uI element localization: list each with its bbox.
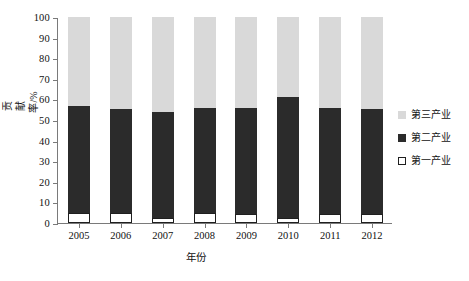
bar-group[interactable] [152,17,174,223]
legend: 第三产业第二产业第一产业 [398,110,451,179]
bar-segment-tertiary[interactable] [361,17,383,109]
x-axis-title: 年份 [0,253,392,264]
y-axis-tick-label: 30 [39,157,50,168]
x-axis-tick [246,223,247,228]
y-axis-tick [53,142,58,143]
bar-segment-tertiary[interactable] [194,17,216,108]
y-axis-tick-label: 50 [39,116,50,127]
legend-label: 第三产业 [411,110,451,120]
x-axis-tick [205,223,206,228]
y-axis-tick [53,80,58,81]
y-axis-tick [53,183,58,184]
bar-group[interactable] [319,17,341,223]
x-axis-tick [288,223,289,228]
stacked-bar-chart: 贡献率/% 0102030405060708090100200520062007… [0,0,469,281]
x-axis-tick [330,223,331,228]
y-axis-tick [53,224,58,225]
y-axis-title: 贡献率/% [13,86,27,125]
y-axis-tick [53,121,58,122]
y-axis-tick-label: 10 [39,198,50,209]
bar-segment-primary[interactable] [235,214,257,223]
y-axis-tick-label: 40 [39,136,50,147]
y-axis-tick-label: 80 [39,54,50,65]
y-axis-tick-label: 100 [34,13,50,24]
bar-segment-primary[interactable] [319,214,341,223]
x-axis-tick [163,223,164,228]
legend-swatch-secondary [398,134,406,142]
bar-group[interactable] [361,17,383,223]
x-axis-tick-label: 2009 [236,231,257,242]
bar-segment-primary[interactable] [110,213,132,223]
legend-label: 第二产业 [411,133,451,143]
bar-segment-tertiary[interactable] [68,17,90,106]
bar-group[interactable] [235,17,257,223]
bar-group[interactable] [68,17,90,223]
bar-segment-tertiary[interactable] [110,17,132,109]
plot-area: 0102030405060708090100200520062007200820… [57,18,392,224]
bar-segment-primary[interactable] [68,213,90,223]
y-axis-tick-label: 70 [39,75,50,86]
bar-segment-tertiary[interactable] [235,17,257,108]
y-axis-tick [53,203,58,204]
bar-segment-primary[interactable] [194,213,216,223]
bar-segment-tertiary[interactable] [152,17,174,112]
legend-swatch-tertiary [398,111,406,119]
bar-segment-secondary[interactable] [319,108,341,215]
y-axis-title-text: 贡献率/% [1,99,40,113]
legend-item[interactable]: 第三产业 [398,110,451,120]
bar-segment-secondary[interactable] [194,108,216,213]
legend-item[interactable]: 第二产业 [398,133,451,143]
bar-group[interactable] [110,17,132,223]
x-axis-tick-label: 2011 [320,231,341,242]
y-axis-tick [53,39,58,40]
plot-inner: 0102030405060708090100200520062007200820… [58,18,392,223]
bar-segment-primary[interactable] [361,214,383,223]
y-axis-tick-label: 90 [39,33,50,44]
x-axis-tick-label: 2012 [362,231,383,242]
x-axis-tick-label: 2010 [278,231,299,242]
bar-segment-secondary[interactable] [110,109,132,213]
legend-swatch-primary [398,157,406,165]
bar-segment-primary[interactable] [277,218,299,223]
x-axis-tick-label: 2008 [194,231,215,242]
x-axis-tick [79,223,80,228]
bar-segment-secondary[interactable] [152,112,174,218]
legend-label: 第一产业 [411,156,451,166]
bar-segment-primary[interactable] [152,218,174,223]
bar-segment-secondary[interactable] [361,109,383,215]
bar-segment-tertiary[interactable] [319,17,341,108]
bar-segment-secondary[interactable] [277,97,299,218]
y-axis-tick-label: 60 [39,95,50,106]
x-axis-tick-label: 2005 [68,231,89,242]
x-axis-tick-label: 2006 [110,231,131,242]
x-axis-tick [121,223,122,228]
bar-segment-secondary[interactable] [235,108,257,215]
bar-segment-tertiary[interactable] [277,17,299,97]
y-axis-tick [53,162,58,163]
x-axis-tick [372,223,373,228]
y-axis-tick [53,100,58,101]
bar-group[interactable] [277,17,299,223]
bar-segment-secondary[interactable] [68,106,90,213]
x-axis-tick-label: 2007 [152,231,173,242]
y-axis-tick [53,59,58,60]
bar-group[interactable] [194,17,216,223]
y-axis-tick-label: 0 [45,219,50,230]
y-axis-tick-label: 20 [39,178,50,189]
legend-item[interactable]: 第一产业 [398,156,451,166]
y-axis-tick [53,18,58,19]
